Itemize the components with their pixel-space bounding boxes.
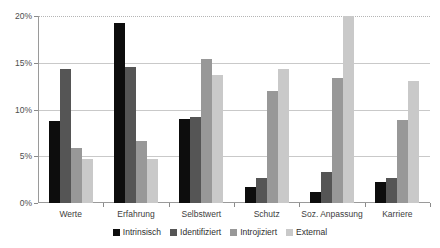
bar bbox=[267, 91, 278, 203]
bar bbox=[408, 81, 419, 203]
bar bbox=[125, 67, 136, 203]
x-axis-tick-label: Selbstwert bbox=[169, 210, 234, 219]
bar bbox=[386, 178, 397, 203]
legend-label: Introjiziert bbox=[240, 228, 277, 237]
bar-group bbox=[49, 16, 93, 203]
bar bbox=[136, 141, 147, 203]
legend: IntrinsischIdentifiziertIntrojiziertExte… bbox=[0, 228, 440, 237]
legend-label: External bbox=[296, 228, 327, 237]
bar bbox=[256, 178, 267, 203]
bar-group bbox=[179, 16, 223, 203]
bar bbox=[179, 119, 190, 203]
bar-group bbox=[114, 16, 158, 203]
legend-swatch-icon bbox=[230, 229, 237, 236]
legend-item[interactable]: Intrinsisch bbox=[113, 228, 161, 237]
legend-label: Identifiziert bbox=[180, 228, 221, 237]
x-axis-tick-label: Soz. Anpassung bbox=[299, 210, 364, 219]
bar bbox=[278, 69, 289, 203]
legend-swatch-icon bbox=[113, 229, 120, 236]
bar bbox=[332, 78, 343, 203]
bar bbox=[147, 159, 158, 203]
bar bbox=[114, 23, 125, 203]
x-axis-tick-mark bbox=[430, 203, 431, 207]
legend-swatch-icon bbox=[286, 229, 293, 236]
bar bbox=[201, 59, 212, 203]
x-axis-tick-mark bbox=[169, 203, 170, 207]
bar-group bbox=[245, 16, 289, 203]
x-axis-tick-label: Schutz bbox=[234, 210, 299, 219]
x-axis-tick-mark bbox=[299, 203, 300, 207]
x-axis-tick-label: Karriere bbox=[365, 210, 430, 219]
bar bbox=[71, 148, 82, 203]
bar bbox=[397, 120, 408, 203]
x-axis: WerteErfahrungSelbstwertSchutzSoz. Anpas… bbox=[0, 206, 440, 222]
legend-item[interactable]: External bbox=[286, 228, 327, 237]
bar bbox=[212, 75, 223, 203]
bar bbox=[245, 187, 256, 203]
bar bbox=[82, 159, 93, 203]
bar bbox=[375, 182, 386, 203]
x-axis-tick-label: Werte bbox=[38, 210, 103, 219]
bar-group bbox=[310, 16, 354, 203]
bar bbox=[343, 16, 354, 203]
bar bbox=[310, 192, 321, 203]
bar bbox=[49, 121, 60, 203]
bar-chart: 0%5%10%15%20% WerteErfahrungSelbstwertSc… bbox=[0, 0, 440, 248]
bar bbox=[190, 117, 201, 203]
x-axis-tick-mark bbox=[365, 203, 366, 207]
legend-label: Intrinsisch bbox=[123, 228, 161, 237]
bar bbox=[60, 69, 71, 203]
legend-swatch-icon bbox=[170, 229, 177, 236]
legend-item[interactable]: Introjiziert bbox=[230, 228, 277, 237]
x-axis-tick-mark bbox=[234, 203, 235, 207]
bar bbox=[321, 172, 332, 203]
bar-group bbox=[375, 16, 419, 203]
x-axis-tick-mark bbox=[103, 203, 104, 207]
legend-item[interactable]: Identifiziert bbox=[170, 228, 221, 237]
x-axis-tick-label: Erfahrung bbox=[103, 210, 168, 219]
